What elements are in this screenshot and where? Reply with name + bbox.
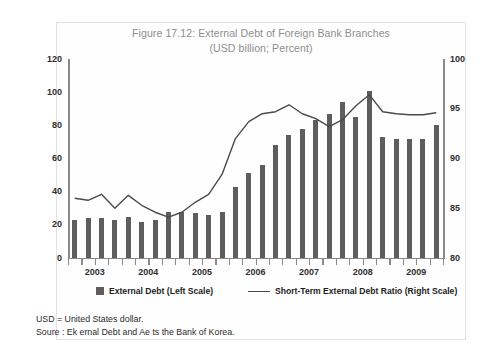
x-tick-mark xyxy=(416,258,417,265)
x-tick-mark xyxy=(269,258,270,265)
x-tick-mark xyxy=(229,258,230,265)
figure-title: Figure 17.12: External Debt of Foreign B… xyxy=(56,26,466,56)
x-axis-label-2008: 2008 xyxy=(343,267,383,277)
x-tick-mark xyxy=(162,258,163,265)
x-tick-mark xyxy=(122,258,123,265)
legend-item-short-term-ratio: Short-Term External Debt Ratio (Right Sc… xyxy=(248,286,457,296)
x-tick-mark xyxy=(81,258,82,265)
right-axis-line xyxy=(443,59,445,259)
legend-label-short-term-ratio: Short-Term External Debt Ratio (Right Sc… xyxy=(275,286,457,296)
x-tick-mark xyxy=(336,258,337,265)
x-axis-label-2005: 2005 xyxy=(182,267,222,277)
line-swatch-icon xyxy=(248,291,270,292)
x-axis-label-2009: 2009 xyxy=(396,267,436,277)
note-line-2: Soure : Ek ernal Debt and Ae ts the Bank… xyxy=(36,326,456,339)
right-axis-tick-95: 95 xyxy=(450,104,478,113)
right-axis-tick-85: 85 xyxy=(450,204,478,213)
left-axis-tick-100: 100 xyxy=(34,88,62,97)
x-tick-mark xyxy=(282,258,283,265)
left-axis-tick-0: 0 xyxy=(34,254,62,263)
x-tick-mark xyxy=(376,258,377,265)
ratio-polyline xyxy=(75,95,437,217)
x-tick-mark xyxy=(296,258,297,265)
x-tick-mark xyxy=(215,258,216,265)
x-tick-mark xyxy=(68,258,69,265)
x-tick-mark xyxy=(443,258,444,265)
x-tick-mark xyxy=(349,258,350,265)
x-tick-mark xyxy=(363,258,364,265)
left-axis-tick-80: 80 xyxy=(34,121,62,130)
x-tick-mark xyxy=(148,258,149,265)
left-axis-tick-40: 40 xyxy=(34,187,62,196)
x-tick-mark xyxy=(175,258,176,265)
x-axis-label-2003: 2003 xyxy=(75,267,115,277)
right-axis-tick-90: 90 xyxy=(450,154,478,163)
x-tick-mark xyxy=(202,258,203,265)
x-tick-mark xyxy=(95,258,96,265)
chart-legend: External Debt (Left Scale) Short-Term Ex… xyxy=(68,286,443,300)
bar-swatch-icon xyxy=(96,287,104,295)
x-tick-mark xyxy=(309,258,310,265)
x-axis-label-2006: 2006 xyxy=(236,267,276,277)
legend-item-external-debt: External Debt (Left Scale) xyxy=(96,286,213,296)
x-axis-label-2007: 2007 xyxy=(289,267,329,277)
title-line-2: (USD billion; Percent) xyxy=(56,41,466,56)
x-tick-mark xyxy=(430,258,431,265)
left-axis-tick-20: 20 xyxy=(34,220,62,229)
x-tick-mark xyxy=(242,258,243,265)
figure-notes: USD = United States dollar. Soure : Ek e… xyxy=(36,313,456,338)
note-line-1: USD = United States dollar. xyxy=(36,313,456,326)
x-tick-mark xyxy=(135,258,136,265)
x-tick-mark xyxy=(389,258,390,265)
legend-label-external-debt: External Debt (Left Scale) xyxy=(109,286,213,296)
right-axis-tick-80: 80 xyxy=(450,254,478,263)
x-tick-mark xyxy=(256,258,257,265)
title-line-1: Figure 17.12: External Debt of Foreign B… xyxy=(56,26,466,41)
x-axis-label-2004: 2004 xyxy=(128,267,168,277)
left-axis-tick-60: 60 xyxy=(34,154,62,163)
short-term-ratio-line xyxy=(68,59,443,258)
left-axis-tick-120: 120 xyxy=(34,55,62,64)
x-tick-mark xyxy=(108,258,109,265)
x-tick-mark xyxy=(322,258,323,265)
x-tick-mark xyxy=(189,258,190,265)
x-tick-mark xyxy=(403,258,404,265)
right-axis-tick-100: 100 xyxy=(450,55,478,64)
